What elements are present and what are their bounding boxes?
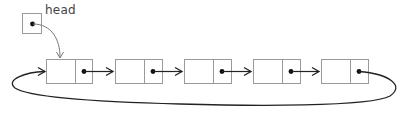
list-node (254, 60, 320, 84)
diagram-canvas: head (0, 0, 410, 115)
head-pointer (23, 14, 64, 59)
list-node (47, 60, 114, 84)
list-node (185, 60, 252, 84)
list-node (116, 60, 183, 84)
linked-list-diagram (0, 0, 410, 115)
head-label: head (45, 3, 76, 17)
